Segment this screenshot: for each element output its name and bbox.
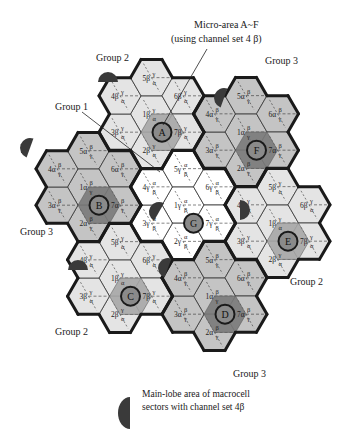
- svg-text:α: α: [184, 97, 188, 104]
- group-label: Group 3: [20, 226, 53, 238]
- cell-label: 2γ: [174, 237, 182, 246]
- cell-label: 6α: [269, 110, 277, 119]
- svg-text:α: α: [184, 233, 188, 240]
- cell-label: 5α: [237, 92, 245, 101]
- svg-text:α: α: [153, 261, 157, 268]
- svg-text:α: α: [153, 179, 157, 186]
- cell-label: 3β: [80, 292, 88, 301]
- cell-label: 4γ: [143, 183, 151, 192]
- cell-label: 5γ: [174, 165, 182, 174]
- svg-text:α: α: [90, 297, 94, 304]
- cell-label: 1β: [111, 274, 119, 283]
- svg-text:α: α: [184, 133, 188, 140]
- svg-text:γ: γ: [278, 151, 282, 158]
- svg-text:α: α: [310, 206, 314, 213]
- svg-text:γ: γ: [215, 297, 219, 304]
- legend-line-1: Main-lobe area of macrocell: [142, 388, 250, 401]
- cell-label: 4α: [206, 110, 214, 119]
- legend-text: Main-lobe area of macrocell sectors with…: [142, 388, 250, 414]
- svg-text:γ: γ: [246, 315, 250, 322]
- cell-label: 7α: [111, 201, 119, 210]
- svg-text:γ: γ: [215, 151, 219, 158]
- svg-text:α: α: [121, 97, 125, 104]
- cell-label: 3α: [174, 310, 182, 319]
- svg-text:γ: γ: [152, 252, 156, 259]
- svg-text:γ: γ: [215, 333, 219, 340]
- svg-text:γ: γ: [89, 224, 93, 231]
- svg-text:γ: γ: [183, 279, 187, 286]
- svg-text:α: α: [153, 115, 157, 122]
- svg-text:γ: γ: [152, 70, 156, 77]
- cell-label: 4α: [174, 274, 182, 283]
- cell-label: 2β: [269, 255, 277, 264]
- svg-text:α: α: [184, 161, 188, 168]
- svg-text:γ: γ: [120, 206, 124, 213]
- svg-text:γ: γ: [57, 170, 61, 177]
- cell-label: 2β: [143, 146, 151, 155]
- svg-text:α: α: [247, 242, 251, 249]
- svg-text:α: α: [153, 151, 157, 158]
- cell-label: 5β: [111, 238, 119, 247]
- cell-label: 7β: [143, 292, 151, 301]
- svg-text:γ: γ: [120, 124, 124, 131]
- cell-label: 2α: [206, 328, 214, 337]
- group-label: Group 3: [233, 368, 266, 380]
- micro-area-title: Micro-area A~F: [194, 19, 259, 31]
- cell-label: 5α: [206, 256, 214, 265]
- svg-text:γ: γ: [89, 288, 93, 295]
- svg-text:γ: γ: [309, 233, 313, 240]
- svg-text:γ: γ: [89, 252, 93, 259]
- legend-lobe-icon: [118, 397, 130, 429]
- svg-text:γ: γ: [120, 234, 124, 241]
- cell-label: 7α: [237, 310, 245, 319]
- svg-text:α: α: [216, 179, 220, 186]
- cell-label: 7γ: [206, 219, 214, 228]
- cell-label: 7β: [300, 237, 308, 246]
- svg-text:γ: γ: [246, 279, 250, 286]
- cell-label: 3γ: [143, 219, 151, 228]
- svg-text:α: α: [279, 224, 283, 231]
- svg-text:γ: γ: [57, 206, 61, 213]
- svg-text:α: α: [279, 188, 283, 195]
- svg-text:α: α: [310, 242, 314, 249]
- svg-text:γ: γ: [152, 288, 156, 295]
- cell-layout-diagram: 1γαβ2γαβ3γαβ4γαβ5γαβ6γαβ7γαβG1βγα2βγα3βγ…: [0, 0, 359, 444]
- cell-label: 6β: [143, 256, 151, 265]
- svg-text:α: α: [121, 279, 125, 286]
- svg-text:γ: γ: [120, 270, 124, 277]
- cell-label: 2α: [237, 164, 245, 173]
- svg-text:α: α: [153, 297, 157, 304]
- svg-text:γ: γ: [278, 179, 282, 186]
- cell-label: 4β: [111, 92, 119, 101]
- cell-label: 6γ: [206, 183, 214, 192]
- svg-text:γ: γ: [246, 233, 250, 240]
- svg-text:γ: γ: [246, 97, 250, 104]
- cell-label: 2α: [80, 219, 88, 228]
- svg-text:γ: γ: [120, 170, 124, 177]
- svg-text:γ: γ: [89, 188, 93, 195]
- cell-label: 5β: [143, 74, 151, 83]
- group-label: Group 2: [96, 52, 129, 64]
- cell-label: 1β: [143, 110, 151, 119]
- cell-label: 1α: [206, 292, 214, 301]
- cell-label: 3β: [237, 237, 245, 246]
- svg-text:γ: γ: [120, 88, 124, 95]
- cell-label: 1α: [80, 183, 88, 192]
- svg-text:γ: γ: [183, 124, 187, 131]
- svg-text:γ: γ: [120, 306, 124, 313]
- svg-text:α: α: [184, 197, 188, 204]
- svg-text:γ: γ: [278, 251, 282, 258]
- cell-label: 1β: [269, 219, 277, 228]
- group-label: Group 1: [55, 101, 88, 113]
- group-label: Group 2: [290, 276, 323, 288]
- group-label: Group 3: [265, 55, 298, 67]
- svg-text:γ: γ: [89, 152, 93, 159]
- svg-text:γ: γ: [246, 169, 250, 176]
- cell-label: 6α: [237, 274, 245, 283]
- cell-label: 4α: [48, 165, 56, 174]
- group-label: Group 2: [55, 326, 88, 338]
- cell-label: 1α: [237, 128, 245, 137]
- svg-text:γ: γ: [309, 197, 313, 204]
- svg-text:α: α: [279, 260, 283, 267]
- svg-text:α: α: [121, 315, 125, 322]
